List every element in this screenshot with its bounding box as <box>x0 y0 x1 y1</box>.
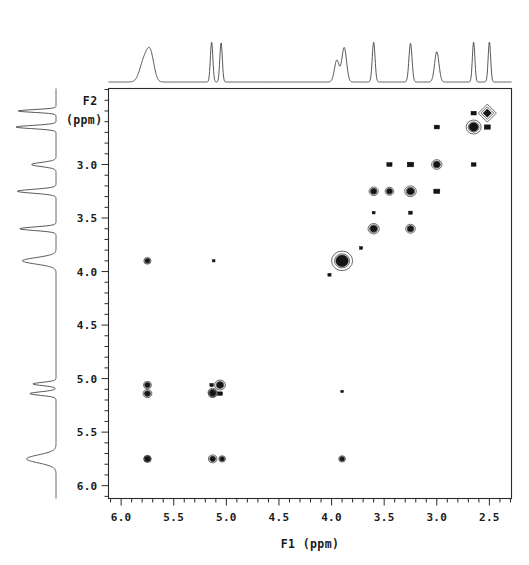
left-projection-trace <box>16 89 56 499</box>
cross-peaks-peak <box>219 456 226 462</box>
contour-core <box>210 457 215 462</box>
contour-core <box>145 457 149 461</box>
contour-core <box>407 162 413 167</box>
y-axis-label-line1: F2 <box>83 94 98 108</box>
y-tick-label: 3.0 <box>77 159 98 172</box>
contour-core <box>471 111 476 115</box>
cross-peaks-peak <box>407 162 413 167</box>
cross-peaks-peak <box>143 381 151 388</box>
contour-core <box>387 163 392 167</box>
diagonal-peaks <box>144 104 497 462</box>
cross-peaks-peak <box>387 163 392 167</box>
x-tick-label: 3.0 <box>426 511 447 524</box>
cross-peaks-peak <box>360 247 363 250</box>
x-axis-label: F1 (ppm) <box>281 537 340 551</box>
diagonal-peaks-peak <box>432 160 442 170</box>
contour-core <box>370 226 377 232</box>
top-projection-trace <box>109 42 512 82</box>
y-axis-label-line2: (ppm) <box>66 113 103 127</box>
cross-peaks-peak <box>434 125 439 129</box>
diagonal-peaks-peak <box>466 120 481 134</box>
cross-peaks-peak <box>341 390 344 392</box>
contour-core <box>360 247 363 250</box>
diagonal-peaks-peak <box>332 251 353 271</box>
contour-core <box>387 189 392 194</box>
y-tick-label: 5.5 <box>77 426 98 439</box>
contour-core <box>469 123 478 131</box>
cross-peaks-peak <box>328 273 331 276</box>
x-tick-label: 5.5 <box>163 511 184 524</box>
y-tick-label: 5.0 <box>77 373 98 386</box>
contour-core <box>409 211 413 214</box>
cross-peaks-peak <box>385 187 394 195</box>
nmr-cosy-figure: 6.05.55.04.54.03.53.02.5F1 (ppm)3.03.54.… <box>0 0 529 565</box>
contour-core <box>212 260 215 262</box>
cross-peaks-peak <box>144 456 151 462</box>
y-tick-label: 4.0 <box>77 266 98 279</box>
x-tick-label: 2.5 <box>479 511 500 524</box>
contour-core <box>220 457 224 461</box>
diagonal-peaks-peak <box>478 104 496 122</box>
x-tick-label: 4.5 <box>269 511 290 524</box>
contour-core <box>218 392 223 395</box>
contour-core <box>471 163 476 166</box>
cross-peaks-peak <box>212 260 215 262</box>
contour-core <box>145 391 150 396</box>
contour-core <box>145 259 149 263</box>
diagonal-peaks-peak <box>405 186 417 197</box>
cross-peaks-peak <box>339 456 346 462</box>
contour-core <box>434 162 440 168</box>
x-axis: 6.05.55.04.54.03.53.02.5F1 (ppm) <box>111 499 511 551</box>
contour-core <box>328 273 331 276</box>
contour-core <box>341 390 344 392</box>
left-projection-curve <box>16 89 56 499</box>
y-axis: 3.03.54.04.55.05.56.0F2(ppm) <box>66 90 109 497</box>
x-tick-label: 5.0 <box>216 511 237 524</box>
contour-core <box>210 391 215 396</box>
cross-peaks-peak <box>434 189 440 193</box>
cross-peaks-peak <box>218 392 223 395</box>
contour-core <box>336 255 349 267</box>
cross-peaks-peak <box>406 224 416 233</box>
cross-peaks-peak <box>484 125 490 129</box>
y-tick-label: 6.0 <box>77 480 98 493</box>
top-projection-curve <box>109 42 512 82</box>
x-tick-label: 3.5 <box>374 511 395 524</box>
contour-core <box>210 383 214 386</box>
cross-peaks-peak <box>210 383 214 386</box>
cross-peaks-peak <box>372 211 375 214</box>
contour-core <box>434 189 440 193</box>
cross-peaks-peak <box>409 211 413 214</box>
contour-core <box>371 189 377 194</box>
y-tick-label: 4.5 <box>77 319 98 332</box>
cross-peaks-peak <box>208 455 216 463</box>
contour-core <box>408 226 414 231</box>
x-tick-label: 6.0 <box>111 511 132 524</box>
y-tick-label: 3.5 <box>77 212 98 225</box>
cross-peaks-peak <box>143 390 152 398</box>
cross-peaks-peak <box>369 187 378 196</box>
diagonal-peaks-peak <box>368 224 379 234</box>
figure-canvas: 6.05.55.04.54.03.53.02.5F1 (ppm)3.03.54.… <box>0 0 529 565</box>
cross-peaks-peak <box>144 258 151 265</box>
contour-core <box>145 383 150 387</box>
contour-core <box>217 382 223 388</box>
contour-core <box>483 109 491 117</box>
contour-core <box>407 188 414 195</box>
contour-core <box>484 125 490 129</box>
cross-peaks-peak <box>471 111 476 115</box>
cross-peaks-peak <box>208 390 216 398</box>
cross-peaks-peak <box>471 163 476 166</box>
contour-core <box>340 457 344 461</box>
diagonal-peaks-peak <box>215 380 226 390</box>
plot-frame <box>109 89 512 499</box>
x-tick-label: 4.0 <box>321 511 342 524</box>
contour-core <box>372 211 375 214</box>
contour-core <box>434 125 439 129</box>
